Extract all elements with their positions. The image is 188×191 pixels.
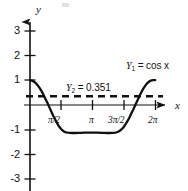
series-label-y1-rest: = cos x [138,60,169,71]
x-tick-label-pi-over-2: π/2 [48,115,60,125]
cosine-graph-figure: y x 3 2 1 -1 -2 -3 π/2 π 3π/2 2π Y1 = co… [0,0,188,191]
x-tick-label-2pi: 2π [148,115,157,125]
x-axis-label: x [175,100,180,110]
y-tick-label-neg2: -2 [0,149,20,159]
x-tick-label-pi: π [89,115,94,125]
y-tick-label-2: 2 [6,50,20,60]
series-label-y2: Y2 = 0.351 [66,83,111,94]
series-label-y2-rest: = 0.351 [78,82,111,93]
y-tick-label-3: 3 [6,25,20,35]
x-tick-label-3pi-over-2: 3π/2 [108,115,125,125]
y-tick-label-neg3: -3 [0,173,20,183]
series-label-y1-subscript: 1 [131,65,135,72]
y-tick-label-1: 1 [6,74,20,84]
series-label-y1: Y1 = cos x [126,61,169,72]
series-label-y2-subscript: 2 [71,87,75,94]
y-tick-label-neg1: -1 [0,124,20,134]
y-axis-label: y [36,4,41,14]
plot-canvas [0,0,188,191]
